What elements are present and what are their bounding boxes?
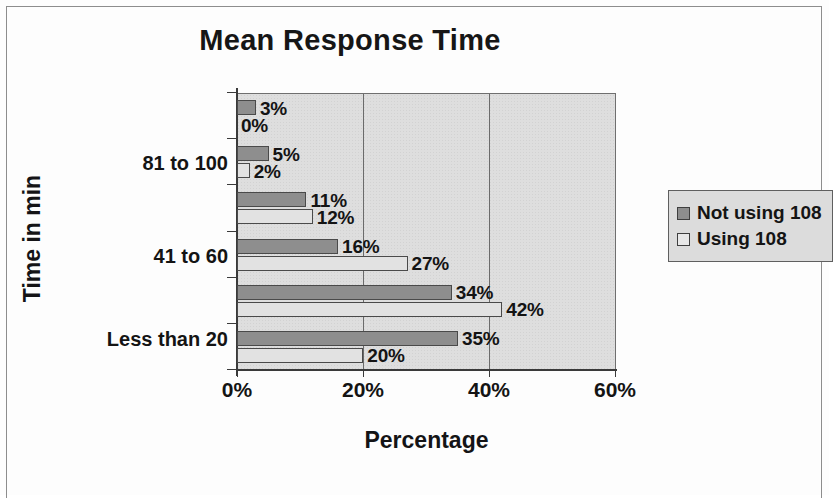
bar-value-label: 27% [412, 254, 449, 273]
legend-swatch-icon [677, 233, 690, 246]
x-axis-line [236, 369, 617, 371]
legend-label: Not using 108 [697, 202, 822, 224]
y-tick-mark [227, 231, 237, 232]
bar-not-using-108 [237, 239, 338, 254]
bar-value-label: 0% [241, 116, 268, 135]
x-tick-label: 40% [446, 378, 532, 402]
bar-value-label: 34% [456, 283, 493, 302]
y-axis-title: Time in min [19, 139, 46, 339]
bar-using-108 [237, 209, 313, 224]
bar-not-using-108 [237, 100, 256, 115]
y-tick-mark [227, 92, 237, 93]
bar-value-label: 42% [506, 300, 543, 319]
plot-scan-noise [237, 94, 615, 370]
bar-not-using-108 [237, 331, 458, 346]
y-tick-mark [227, 184, 237, 185]
y-tick-mark [227, 323, 237, 324]
y-category-label-less-than-20: Less than 20 [107, 328, 228, 351]
y-category-label-81-to-100: 81 to 100 [142, 152, 228, 175]
bar-not-using-108 [237, 285, 452, 300]
legend-swatch-icon [677, 207, 690, 220]
bar-not-using-108 [237, 146, 269, 161]
gridline-20 [363, 94, 364, 370]
legend-item-not-using-108: Not using 108 [677, 200, 822, 226]
x-tick-mark [237, 370, 238, 377]
y-category-labels: 81 to 100 41 to 60 Less than 20 [60, 0, 228, 495]
y-tick-mark [227, 138, 237, 139]
bar-using-108 [237, 348, 363, 363]
bar-value-label: 12% [317, 208, 354, 227]
bar-using-108 [237, 302, 502, 317]
bar-not-using-108 [237, 192, 306, 207]
bar-value-label: 20% [367, 346, 404, 365]
x-tick-mark [363, 370, 364, 377]
bar-value-label: 16% [342, 237, 379, 256]
x-tick-label: 60% [572, 378, 658, 402]
x-tick-mark [615, 370, 616, 377]
plot-area [237, 93, 616, 370]
y-tick-mark [227, 369, 237, 370]
bar-value-label: 2% [254, 162, 281, 181]
legend-item-using-108: Using 108 [677, 226, 822, 252]
chart-legend: Not using 108 Using 108 [668, 190, 833, 262]
x-tick-mark [489, 370, 490, 377]
bar-using-108 [237, 163, 250, 178]
legend-label: Using 108 [697, 228, 787, 250]
x-axis-title: Percentage [237, 427, 616, 454]
bar-value-label: 35% [462, 329, 499, 348]
y-category-label-41-to-60: 41 to 60 [154, 245, 228, 268]
x-tick-label: 20% [320, 378, 406, 402]
bar-using-108 [237, 256, 408, 271]
y-tick-mark [227, 277, 237, 278]
